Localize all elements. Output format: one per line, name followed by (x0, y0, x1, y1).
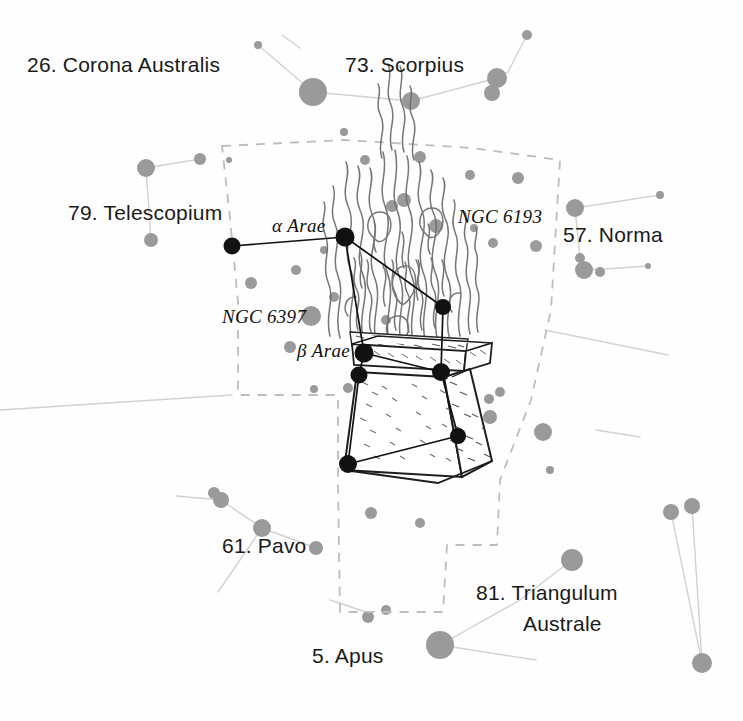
star-alpha-arae (336, 228, 355, 247)
label-telescopium: 79. Telescopium (68, 200, 222, 226)
star-theta-arae (450, 428, 466, 444)
label-ngc-6193: NGC 6193 (458, 206, 542, 228)
label-corona-australis: 26. Corona Australis (27, 52, 220, 78)
ara-altar-figure (323, 64, 492, 483)
label-alpha-arae: α Arae (272, 215, 325, 237)
star-chart-plate: 26. Corona Australis 73. Scorpius 79. Te… (0, 0, 743, 721)
label-beta-arae: β Arae (297, 340, 350, 362)
neighbour-constellation-lines (0, 35, 702, 663)
label-norma: 57. Norma (563, 222, 663, 248)
label-triangulum-australe-line-1: 81. Triangulum (476, 580, 618, 606)
star-gamma-arae (351, 367, 368, 384)
altar-pedestal (344, 369, 492, 483)
sky-canvas (0, 0, 743, 721)
label-scorpius: 73. Scorpius (345, 52, 464, 78)
label-triangulum-australe-line-2: Australe (523, 611, 602, 637)
star-zeta-arae (435, 299, 451, 315)
star-epsilon-arae (224, 238, 241, 255)
label-apus: 5. Apus (312, 643, 383, 669)
star-delta-arae (432, 363, 450, 381)
label-pavo: 61. Pavo (222, 533, 307, 559)
star-beta-arae (355, 344, 374, 363)
label-ngc-6397: NGC 6397 (222, 306, 306, 328)
star-eta-arae (339, 455, 357, 473)
